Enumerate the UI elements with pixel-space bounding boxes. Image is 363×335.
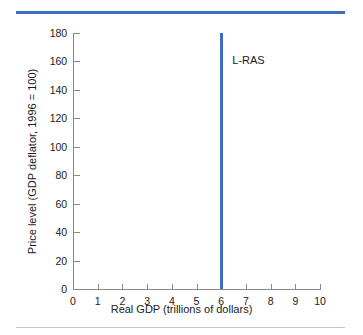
y-axis-tick (74, 175, 80, 176)
y-axis-tick-label: 40 (56, 226, 67, 238)
x-axis-tick (295, 284, 296, 290)
y-axis-tick-label: 160 (50, 55, 67, 67)
y-axis-tick-label: 140 (50, 84, 67, 96)
top-divider-rule (16, 11, 345, 14)
y-axis-tick (74, 261, 80, 262)
lras-series-label: L-RAS (232, 54, 264, 66)
figure: 020406080100120140160180012345678910L-RA… (0, 0, 363, 335)
y-axis-tick (74, 90, 80, 91)
x-axis-tick (172, 284, 173, 290)
y-axis-line (73, 33, 74, 290)
x-axis-tick (98, 284, 99, 290)
y-axis-tick-label: 0 (61, 283, 67, 295)
y-axis-tick (74, 204, 80, 205)
y-axis-tick (74, 232, 80, 233)
x-axis-tick (246, 284, 247, 290)
y-axis-tick-label: 60 (56, 198, 67, 210)
x-axis-tick (122, 284, 123, 290)
y-axis-tick (74, 289, 80, 290)
y-axis-tick-label: 120 (50, 112, 67, 124)
x-axis-tick (271, 284, 272, 290)
y-axis-title: Price level (GDP deflator, 1996 = 100) (26, 33, 38, 290)
plot-area: 020406080100120140160180012345678910L-RA… (73, 33, 320, 290)
x-axis-tick (147, 284, 148, 290)
bottom-divider-rule (16, 327, 345, 328)
x-axis-tick (73, 284, 74, 290)
x-axis-tick (197, 284, 198, 290)
x-axis-tick (320, 284, 321, 290)
y-axis-tick-label: 20 (56, 255, 67, 267)
x-axis-title: Real GDP (trillions of dollars) (0, 303, 363, 315)
y-axis-tick (74, 61, 80, 62)
y-axis-tick-label: 180 (50, 27, 67, 39)
y-axis-tick (74, 33, 80, 34)
y-axis-tick-label: 100 (50, 141, 67, 153)
y-axis-tick (74, 118, 80, 119)
y-axis-tick-label: 80 (56, 169, 67, 181)
y-axis-tick (74, 147, 80, 148)
lras-curve (220, 33, 223, 289)
